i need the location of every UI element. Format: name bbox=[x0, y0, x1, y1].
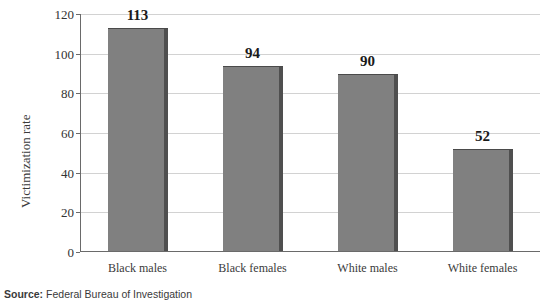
y-tick-mark bbox=[76, 93, 80, 94]
bar-value-label: 113 bbox=[98, 8, 178, 23]
y-tick-label: 20 bbox=[61, 206, 74, 219]
y-tick-mark bbox=[76, 14, 80, 15]
bar bbox=[453, 149, 513, 252]
source-text: Federal Bureau of Investigation bbox=[46, 288, 192, 300]
bar-shadow-edge bbox=[279, 67, 283, 252]
y-tick-mark bbox=[76, 212, 80, 213]
y-tick-label: 80 bbox=[61, 87, 74, 100]
category-label: White females bbox=[423, 262, 543, 274]
y-tick-mark bbox=[76, 133, 80, 134]
y-tick-mark bbox=[76, 252, 80, 253]
y-tick-label: 40 bbox=[61, 167, 74, 180]
category-label: Black males bbox=[78, 262, 198, 274]
bar-shadow-edge bbox=[394, 75, 398, 253]
y-tick-label: 0 bbox=[68, 246, 75, 259]
bar-value-label: 52 bbox=[443, 129, 523, 144]
bar bbox=[108, 28, 168, 252]
y-tick-label: 120 bbox=[55, 8, 75, 21]
bar-chart-figure: Victimization rate 020406080100120 11394… bbox=[0, 0, 555, 305]
x-axis-baseline bbox=[80, 251, 540, 252]
category-label: White males bbox=[308, 262, 428, 274]
bar-shadow-edge bbox=[509, 150, 513, 252]
y-axis-tick-labels: 020406080100120 bbox=[0, 14, 74, 252]
bar bbox=[223, 66, 283, 252]
bar bbox=[338, 74, 398, 253]
bar-shadow-edge bbox=[164, 29, 168, 252]
source-label: Source: bbox=[4, 288, 43, 300]
y-tick-label: 60 bbox=[61, 127, 74, 140]
y-tick-mark bbox=[76, 54, 80, 55]
source-note: Source:Federal Bureau of Investigation bbox=[4, 288, 192, 300]
y-tick-label: 100 bbox=[55, 48, 75, 61]
bar-value-label: 90 bbox=[328, 54, 408, 69]
category-label: Black females bbox=[193, 262, 313, 274]
y-tick-mark bbox=[76, 173, 80, 174]
y-axis-line bbox=[80, 14, 81, 252]
bar-value-label: 94 bbox=[213, 46, 293, 61]
